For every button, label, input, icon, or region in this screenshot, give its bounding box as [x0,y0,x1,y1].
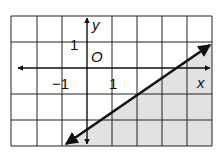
x-tick-label-neg1: −1 [52,75,69,92]
x-tick-label-1: 1 [109,75,117,92]
coordinate-graph: y 1 O −1 1 x [0,0,217,157]
y-tick-label-1: 1 [70,36,78,53]
origin-label: O [91,48,103,65]
y-axis-label: y [91,16,101,33]
x-axis-label: x [196,74,205,91]
